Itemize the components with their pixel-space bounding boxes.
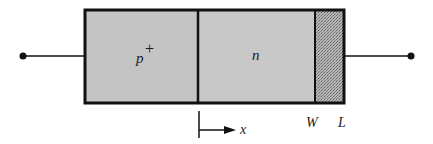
left-terminal-dot: [20, 53, 27, 60]
l-label: L: [337, 115, 346, 130]
x-axis-label: x: [239, 122, 247, 137]
p-plus-label: p: [135, 50, 144, 66]
diode-diagram: p + n x W L: [0, 0, 433, 144]
x-arrow-icon: [224, 126, 236, 134]
w-label: W: [306, 115, 319, 130]
p-plus-superscript: +: [145, 40, 154, 57]
n-label: n: [252, 47, 260, 63]
contact-region: [315, 10, 344, 103]
right-terminal-dot: [408, 53, 415, 60]
